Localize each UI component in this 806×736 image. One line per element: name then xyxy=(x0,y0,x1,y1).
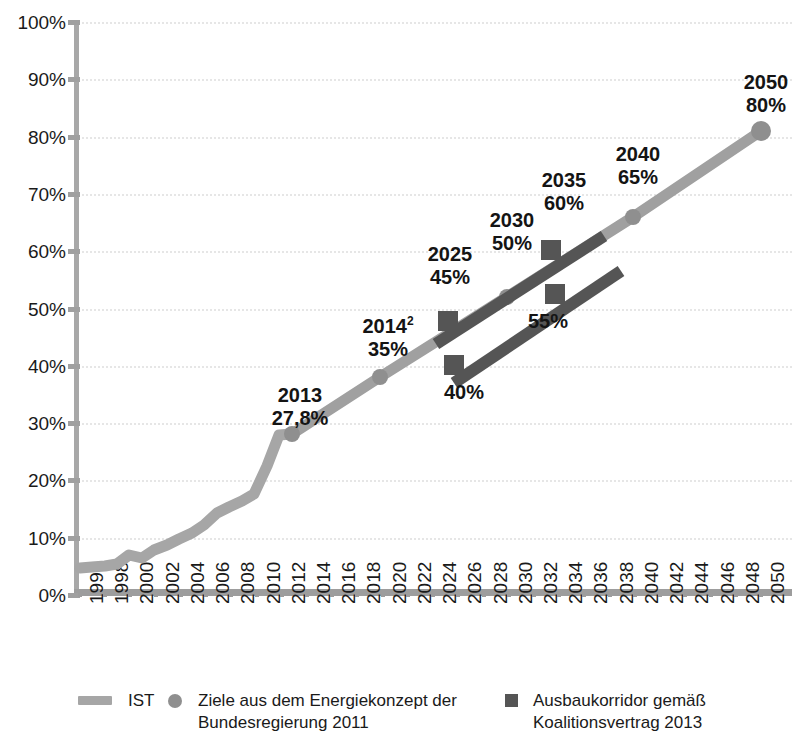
annotation-2013-value: 27,8% xyxy=(254,407,346,430)
annotation-2040: 2040 65% xyxy=(598,143,678,189)
annotation-2050-value: 80% xyxy=(726,94,806,117)
annotation-2025-value: 45% xyxy=(410,266,490,289)
korridor-upper-marker-2025 xyxy=(438,311,458,331)
annotation-2035-value: 60% xyxy=(524,192,604,215)
legend-circle-swatch-icon xyxy=(168,694,182,708)
legend-square-swatch-icon xyxy=(505,694,518,707)
annotation-2014-value: 35% xyxy=(342,338,434,361)
annotation-2014-year: 20142 xyxy=(342,310,434,338)
korridor-lower-marker-2024 xyxy=(444,355,464,375)
annotation-2014: 20142 35% xyxy=(342,310,434,361)
annotation-2014-superscript: 2 xyxy=(407,314,414,328)
legend-label-ist: IST xyxy=(128,690,154,711)
annotation-2050-year: 2050 xyxy=(726,71,806,94)
chart-legend: IST Ziele aus dem Energiekonzept der Bun… xyxy=(0,668,806,728)
annotation-55-percent: 55% xyxy=(508,310,588,333)
legend-label-ziele-line2: Bundesregierung 2011 xyxy=(198,712,369,733)
korridor-lower-marker-2033 xyxy=(545,284,565,304)
series-layer xyxy=(0,0,806,736)
ziele-marker-2050 xyxy=(751,121,771,141)
ziele-marker-2040 xyxy=(625,209,641,225)
annotation-2040-year: 2040 xyxy=(598,143,678,166)
annotation-2013: 2013 27,8% xyxy=(254,384,346,430)
annotation-2040-value: 65% xyxy=(598,166,678,189)
renewable-energy-share-chart: 100% 90% 80% 70% 60% 50% 40% 30% 20% 10%… xyxy=(0,0,806,736)
legend-line-swatch-icon xyxy=(78,696,112,705)
annotation-2030: 2030 50% xyxy=(472,209,552,255)
ziele-marker-2020 xyxy=(372,369,388,385)
legend-label-ziele-line1: Ziele aus dem Energiekonzept der xyxy=(198,690,457,711)
annotation-2035: 2035 60% xyxy=(524,169,604,215)
annotation-2030-value: 50% xyxy=(472,232,552,255)
annotation-40-value: 40% xyxy=(424,381,504,404)
annotation-2035-year: 2035 xyxy=(524,169,604,192)
annotation-2050: 2050 80% xyxy=(726,71,806,117)
ist-line xyxy=(80,434,292,568)
annotation-2013-year: 2013 xyxy=(254,384,346,407)
annotation-40-percent: 40% xyxy=(424,381,504,404)
legend-label-korridor-line2: Koalitionsvertrag 2013 xyxy=(533,712,702,733)
annotation-55-value: 55% xyxy=(508,310,588,333)
legend-label-korridor-line1: Ausbaukorridor gemäß xyxy=(533,690,706,711)
